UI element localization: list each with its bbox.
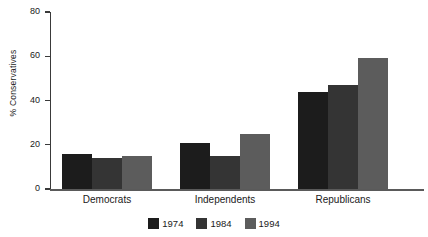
y-axis-tick-label: 0 — [14, 184, 40, 193]
x-axis-category-label: Republicans — [273, 194, 413, 205]
legend-item[interactable]: 1974 — [148, 218, 183, 229]
legend-swatch-icon — [196, 218, 207, 229]
legend-item[interactable]: 1984 — [196, 218, 231, 229]
y-axis-tick-label: 40 — [14, 96, 40, 105]
x-axis-line — [50, 189, 424, 191]
bar-group — [298, 12, 388, 189]
legend-swatch-icon — [245, 218, 256, 229]
y-axis-tick-label: 80 — [14, 7, 40, 16]
legend-label: 1974 — [162, 218, 183, 229]
bar-group — [180, 12, 270, 189]
bar — [358, 58, 388, 189]
legend-item[interactable]: 1994 — [245, 218, 280, 229]
bar — [92, 158, 122, 189]
bar-group — [62, 12, 152, 189]
bar-chart: % Conservatives 020406080 DemocratsIndep… — [0, 0, 428, 237]
legend-swatch-icon — [148, 218, 159, 229]
chart-legend: 197419841994 — [0, 218, 428, 229]
bar — [298, 92, 328, 189]
y-axis-tick-label: 20 — [14, 140, 40, 149]
legend-label: 1994 — [259, 218, 280, 229]
bar — [62, 154, 92, 189]
bar — [180, 143, 210, 189]
bar — [328, 85, 358, 189]
y-axis-tick-label: 60 — [14, 51, 40, 60]
bar — [122, 156, 152, 189]
bar — [240, 134, 270, 189]
plot-area — [50, 12, 424, 189]
y-axis-title: % Conservatives — [8, 23, 18, 143]
bar — [210, 156, 240, 189]
legend-label: 1984 — [210, 218, 231, 229]
